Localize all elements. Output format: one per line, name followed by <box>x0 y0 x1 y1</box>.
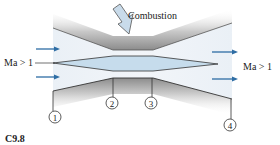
svg-text:2: 2 <box>110 99 115 109</box>
outlet-mach-label: Ma > 1 <box>243 61 272 72</box>
svg-text:1: 1 <box>53 113 58 123</box>
station-4-marker: 4 <box>224 119 236 131</box>
station-3-marker: 3 <box>145 97 157 109</box>
ramjet-diagram: Combustion Ma > 1 Ma > 1 1 2 3 4 C9.8 <box>0 0 280 145</box>
station-1-marker: 1 <box>49 111 61 123</box>
figure-caption: C9.8 <box>5 133 25 144</box>
station-2-marker: 2 <box>106 97 118 109</box>
inlet-mach-label: Ma > 1 <box>4 57 33 68</box>
svg-text:4: 4 <box>228 121 233 131</box>
combustion-label: Combustion <box>128 10 177 21</box>
svg-text:3: 3 <box>149 99 154 109</box>
